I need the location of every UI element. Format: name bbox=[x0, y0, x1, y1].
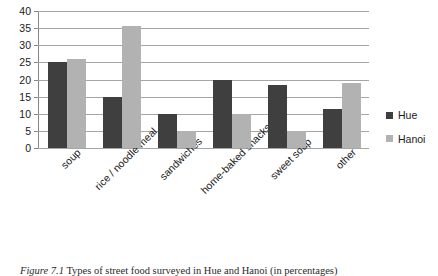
chart-legend: Hue Hanoi bbox=[386, 110, 425, 157]
bar-hue[interactable] bbox=[213, 80, 232, 149]
bar-group bbox=[149, 11, 204, 148]
legend-swatch-icon bbox=[386, 135, 393, 142]
bar-hue[interactable] bbox=[48, 62, 67, 148]
y-axis-tick bbox=[34, 131, 38, 132]
x-axis-label-cell: sandwiches bbox=[149, 149, 204, 249]
legend-item-hue: Hue bbox=[386, 110, 425, 121]
y-axis-tick-label: 30 bbox=[19, 40, 31, 51]
y-axis-tick-label: 25 bbox=[19, 57, 31, 68]
bar-group bbox=[204, 11, 259, 148]
bar-hue[interactable] bbox=[323, 109, 342, 148]
bar-groups bbox=[39, 11, 369, 148]
y-axis-tick-label: 10 bbox=[19, 109, 31, 120]
y-axis-tick bbox=[34, 28, 38, 29]
legend-item-hanoi: Hanoi bbox=[386, 134, 425, 145]
x-axis-label-cell: soup bbox=[39, 149, 94, 249]
legend-label-hue: Hue bbox=[398, 110, 417, 121]
bar-group bbox=[39, 11, 94, 148]
bar-hanoi[interactable] bbox=[67, 59, 86, 148]
bar-hue[interactable] bbox=[103, 97, 122, 148]
y-axis-tick-label: 40 bbox=[19, 6, 31, 17]
y-axis-tick bbox=[34, 80, 38, 81]
y-axis-tick-label: 35 bbox=[19, 23, 31, 34]
x-axis-label-cell: sweet soup bbox=[260, 149, 315, 249]
y-axis-tick bbox=[34, 114, 38, 115]
legend-label-hanoi: Hanoi bbox=[398, 134, 425, 145]
y-axis-tick bbox=[34, 45, 38, 46]
y-axis-tick-label: 5 bbox=[25, 126, 31, 137]
figure-caption-text: Types of street food surveyed in Hue and… bbox=[66, 265, 337, 276]
bar-hanoi[interactable] bbox=[287, 131, 306, 148]
bar-chart: 4035302520151050 bbox=[0, 0, 438, 170]
figure-caption: Figure 7.1 Types of street food surveyed… bbox=[20, 265, 430, 276]
bar-hanoi[interactable] bbox=[177, 131, 196, 148]
bar-hue[interactable] bbox=[268, 85, 287, 148]
y-axis-tick-label: 15 bbox=[19, 91, 31, 102]
legend-swatch-icon bbox=[386, 112, 393, 119]
bar-group bbox=[259, 11, 314, 148]
y-axis-tick bbox=[34, 97, 38, 98]
bar-group bbox=[94, 11, 149, 148]
x-axis-label-cell: other bbox=[315, 149, 370, 249]
bar-hanoi[interactable] bbox=[122, 26, 141, 148]
x-axis-labels: souprice / noodle mealsandwicheshome-bak… bbox=[39, 149, 370, 249]
y-axis-tick-label: 20 bbox=[19, 74, 31, 85]
y-axis-tick-label: 0 bbox=[25, 143, 31, 154]
y-axis-tick bbox=[34, 62, 38, 63]
plot-area: 4035302520151050 bbox=[38, 11, 369, 148]
figure-number: Figure 7.1 bbox=[20, 265, 64, 276]
bar-hanoi[interactable] bbox=[232, 114, 251, 148]
x-axis-label-cell: home-baked snacks bbox=[205, 149, 260, 249]
y-axis-tick bbox=[34, 148, 38, 149]
y-axis-tick bbox=[34, 11, 38, 12]
x-axis-label: other bbox=[334, 147, 358, 171]
x-axis-label: soup bbox=[59, 147, 83, 171]
x-axis-label-cell: rice / noodle meal bbox=[94, 149, 149, 249]
bar-group bbox=[314, 11, 369, 148]
bar-hanoi[interactable] bbox=[342, 83, 361, 148]
bar-hue[interactable] bbox=[158, 114, 177, 148]
